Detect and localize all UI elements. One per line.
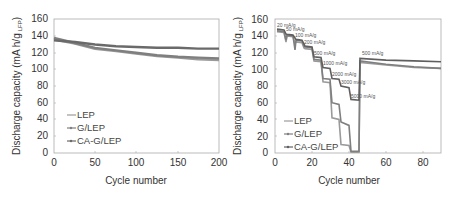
left-series <box>54 38 219 60</box>
x-tick: 60 <box>380 157 392 168</box>
rate-label: 2000 mA/g <box>332 71 356 77</box>
legend-item-ca-g-lep: CA-G/LEP <box>294 141 338 152</box>
y-tick: 160 <box>251 14 268 25</box>
x-tick: 80 <box>417 157 429 168</box>
left-chart: 0 20 40 60 80 100 120 140 160 0 50 100 1… <box>11 13 228 186</box>
x-tick: 150 <box>170 157 187 168</box>
y-tick: 60 <box>257 97 269 108</box>
legend-item-g-lep: G/LEP <box>77 122 105 133</box>
rate-label: 500 mA/g <box>314 50 336 56</box>
series-ca-g-lep <box>277 29 441 100</box>
x-tick: 20 <box>306 157 318 168</box>
y-tick: 80 <box>37 80 49 91</box>
legend-item-ca-g-lep: CA-G/LEP <box>77 135 121 146</box>
right-legend: LEP G/LEP CA-G/LEP <box>284 115 338 152</box>
y-tick: 60 <box>37 97 49 108</box>
right-y-axis-label: Discharge capacity (mA h/gLFP) <box>232 17 244 155</box>
left-y-axis-label: Discharge capacity (mA h/gLFP) <box>11 17 23 155</box>
right-x-ticks: 0 20 40 60 80 <box>272 157 429 168</box>
y-tick: 160 <box>31 13 48 24</box>
y-tick: 20 <box>37 130 49 141</box>
legend-item-g-lep: G/LEP <box>294 128 322 139</box>
x-tick: 200 <box>211 157 228 168</box>
rate-label: 3000 mA/g <box>341 79 365 85</box>
y-tick: 140 <box>251 30 268 41</box>
left-x-axis-label: Cycle number <box>105 175 167 186</box>
rate-label: 1000 mA/g <box>323 60 347 66</box>
x-tick: 100 <box>128 157 145 168</box>
right-y-ticks: 0 20 40 60 80 100 120 140 160 <box>251 14 268 158</box>
rate-label: 500 mA/g <box>362 50 384 56</box>
y-tick: 40 <box>257 114 269 125</box>
left-x-ticks: 0 50 100 150 200 <box>51 157 228 168</box>
rate-label: 200 mA/g <box>304 39 326 45</box>
y-tick: 0 <box>262 147 268 158</box>
rate-label: 5000 mA/g <box>351 93 375 99</box>
right-x-axis-label: Cycle number <box>318 175 380 186</box>
y-tick: 120 <box>251 47 268 58</box>
x-tick: 0 <box>51 157 57 168</box>
y-tick: 100 <box>251 64 268 75</box>
legend-item-lep: LEP <box>294 115 312 126</box>
left-y-ticks: 0 20 40 60 80 100 120 140 160 <box>31 13 48 158</box>
x-tick: 40 <box>343 157 355 168</box>
y-tick: 80 <box>257 80 269 91</box>
y-tick: 40 <box>37 113 49 124</box>
rate-label: 100 mA/g <box>295 32 317 38</box>
y-tick: 20 <box>257 131 269 142</box>
figure: 0 20 40 60 80 100 120 140 160 0 50 100 1… <box>0 0 450 198</box>
x-tick: 0 <box>272 157 278 168</box>
y-tick: 120 <box>31 47 48 58</box>
y-tick: 100 <box>31 63 48 74</box>
legend-item-lep: LEP <box>77 109 95 120</box>
x-tick: 50 <box>89 157 101 168</box>
left-legend: LEP G/LEP CA-G/LEP <box>67 109 121 146</box>
y-tick: 140 <box>31 30 48 41</box>
right-chart: 0 20 40 60 80 100 120 140 160 0 20 40 60… <box>232 14 441 186</box>
y-tick: 0 <box>42 147 48 158</box>
